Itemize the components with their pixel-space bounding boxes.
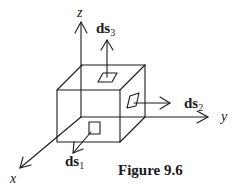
ds3-subscript: 3 xyxy=(110,27,115,38)
ds2-base: ds xyxy=(184,95,198,111)
figure-caption: Figure 9.6 xyxy=(118,163,183,178)
ds3-label: ds3 xyxy=(96,21,115,38)
figure-canvas: z y x ds3 ds2 ds1 Figure 9.6 xyxy=(0,0,245,190)
x-axis-label: x xyxy=(10,172,16,186)
z-axis-label: z xyxy=(77,6,82,20)
ds2-subscript: 2 xyxy=(198,102,203,113)
ds2-label: ds2 xyxy=(184,96,203,113)
ds3-element xyxy=(98,40,117,82)
ds1-subscript: 1 xyxy=(79,160,84,171)
ds3-base: ds xyxy=(96,20,110,36)
y-axis-label: y xyxy=(221,110,227,124)
ds1-element xyxy=(73,122,100,153)
ds2-element xyxy=(127,93,170,109)
ds1-label: ds1 xyxy=(65,154,84,171)
ds1-base: ds xyxy=(65,153,79,169)
